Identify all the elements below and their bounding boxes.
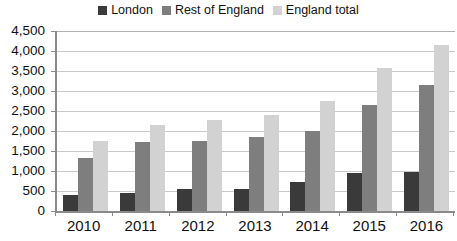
y-tick-label: 4,500 [11,24,45,38]
y-tick-label: 4,000 [11,44,45,58]
y-tick-label: 1,500 [11,144,45,158]
legend-label-england-total: England total [286,4,359,17]
bar-rest-of-england-2010 [78,158,93,211]
bar-rest-of-england-2016 [419,85,434,211]
bar-london-2010 [63,195,78,211]
legend-item-london: London [98,4,153,17]
x-tick-label-2012: 2012 [169,216,226,236]
legend-label-rest-of-england: Rest of England [175,4,264,17]
chart-legend: London Rest of England England total [0,0,457,20]
bar-rest-of-england-2011 [135,142,150,211]
bar-group [228,31,285,211]
y-tick-label: 0 [37,204,45,218]
bar-england-total-2014 [320,101,335,211]
y-tick-label: 1,000 [11,164,45,178]
plot-area [55,31,455,213]
bar-rest-of-england-2013 [249,137,264,211]
x-tick-label-2016: 2016 [398,216,455,236]
bar-group [57,31,114,211]
bar-england-total-2015 [377,68,392,211]
legend-item-rest-of-england: Rest of England [162,4,264,17]
bar-london-2011 [120,193,135,211]
y-tick-label: 500 [22,184,45,198]
x-tick-label-2015: 2015 [341,216,398,236]
bar-rest-of-england-2015 [362,105,377,211]
bar-england-total-2013 [264,115,279,211]
y-tick-label: 3,500 [11,64,45,78]
legend-label-london: London [111,4,153,17]
y-tick-label: 2,000 [11,124,45,138]
x-tick-label-2013: 2013 [226,216,283,236]
bar-group [398,31,455,211]
bar-england-total-2011 [150,125,165,211]
x-axis: 2010201120122013201420152016 [55,216,455,240]
bar-england-total-2012 [207,120,222,211]
bar-england-total-2016 [434,45,449,211]
bar-london-2015 [347,173,362,211]
y-axis: 4,5004,0003,5003,0002,5002,0001,5001,000… [0,25,48,211]
y-tick-label: 3,000 [11,84,45,98]
bar-london-2013 [234,189,249,211]
bar-london-2012 [177,189,192,211]
bar-group [341,31,398,211]
legend-swatch-england-total [273,6,282,15]
y-tick-label: 2,500 [11,104,45,118]
bars-layer [57,31,455,211]
legend-item-england-total: England total [273,4,359,17]
bar-group [284,31,341,211]
bar-rest-of-england-2014 [305,131,320,211]
bar-group [171,31,228,211]
x-tick-label-2011: 2011 [112,216,169,236]
x-tick-label-2014: 2014 [284,216,341,236]
legend-swatch-london [98,6,107,15]
plot-wrapper: 4,5004,0003,5003,0002,5002,0001,5001,000… [0,20,457,241]
x-tick-label-2010: 2010 [55,216,112,236]
bar-london-2016 [404,172,419,211]
bar-england-total-2010 [93,141,108,211]
legend-swatch-rest-of-england [162,6,171,15]
bar-group [114,31,171,211]
bar-rest-of-england-2012 [192,141,207,211]
bar-london-2014 [290,182,305,211]
bar-chart: London Rest of England England total 4,5… [0,0,457,241]
